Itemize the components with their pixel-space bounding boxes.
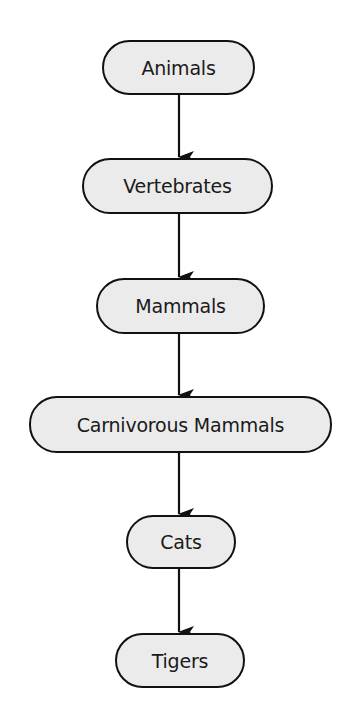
node-cats: Cats bbox=[126, 515, 236, 569]
node-tigers: Tigers bbox=[115, 633, 245, 688]
node-mammals: Mammals bbox=[96, 278, 265, 334]
node-label: Carnivorous Mammals bbox=[77, 414, 285, 436]
node-carnivorous-mammals: Carnivorous Mammals bbox=[29, 396, 332, 453]
node-label: Vertebrates bbox=[123, 175, 232, 197]
flowchart-canvas: Animals Vertebrates Mammals Carnivorous … bbox=[0, 0, 358, 714]
node-animals: Animals bbox=[102, 40, 255, 95]
node-label: Tigers bbox=[152, 650, 209, 672]
flowchart-edges bbox=[0, 0, 358, 714]
node-vertebrates: Vertebrates bbox=[82, 158, 273, 214]
node-label: Mammals bbox=[135, 295, 225, 317]
node-label: Cats bbox=[160, 531, 201, 553]
node-label: Animals bbox=[141, 57, 215, 79]
